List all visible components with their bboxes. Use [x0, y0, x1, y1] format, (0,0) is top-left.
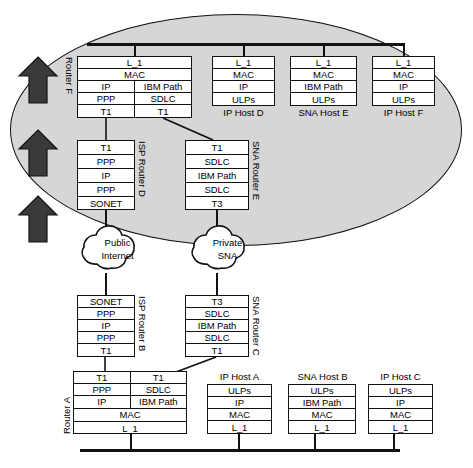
- cloud-label-public-internet-line1: Public: [80, 238, 155, 248]
- stack-sna-host-b[interactable]: ULPs IBM Path MAC L_1: [288, 384, 356, 434]
- stack-row: PPP: [78, 155, 134, 169]
- stack-row: MAC: [213, 69, 274, 81]
- stack-cell: PPP: [78, 183, 134, 196]
- stack-cell: IBM Path: [135, 81, 191, 92]
- stack-row: L_1: [369, 421, 432, 434]
- stack-cell: PPP: [78, 155, 134, 168]
- label-sna-router-c: SNA Router C: [251, 296, 261, 356]
- stack-cell: ULPs: [213, 93, 274, 106]
- stack-cell: SDLC: [186, 332, 248, 343]
- stack-row: SDLC: [186, 308, 248, 320]
- stack-row: SDLC: [186, 183, 248, 197]
- drop-line-sna-host-b: [314, 434, 316, 450]
- stack-cell: ULPs: [289, 385, 355, 396]
- stack-row: MAC: [289, 409, 355, 421]
- stack-row: L_1: [208, 421, 271, 434]
- stack-row: IP: [78, 320, 134, 332]
- cloud-label-public-internet-line2: Internet: [80, 251, 155, 261]
- stack-cell: IP: [74, 396, 131, 408]
- stack-row: MAC: [369, 409, 432, 421]
- stack-cell: SDLC: [131, 384, 187, 395]
- stack-row: IP: [213, 81, 274, 93]
- stack-ip-host-c[interactable]: ULPs IP MAC L_1: [368, 384, 433, 434]
- stack-row: ULPs: [373, 93, 434, 106]
- stack-cell: IBM Path: [186, 320, 248, 331]
- stack-cell: L_1: [373, 57, 434, 68]
- stack-ip-host-a[interactable]: ULPs IP MAC L_1: [207, 384, 272, 434]
- stack-row: IBM Path: [289, 397, 355, 409]
- stack-row: L_1: [291, 57, 356, 69]
- stack-cell: ULPs: [369, 385, 432, 396]
- stack-router-a[interactable]: T1 T1 PPP SDLC IP IBM Path MAC L_1: [73, 371, 187, 434]
- stack-cell: T3: [186, 197, 248, 211]
- stack-cell: T1: [186, 141, 248, 154]
- stack-cell: IP: [213, 81, 274, 92]
- stack-cell: PPP: [78, 308, 134, 319]
- stack-cell: MAC: [74, 409, 186, 421]
- stack-row: PPP SDLC: [74, 384, 186, 396]
- label-router-f: Router F: [64, 57, 74, 94]
- stack-cell: PPP: [78, 332, 134, 343]
- stack-row: T3: [186, 296, 248, 308]
- diagram-canvas: L_1 MAC IP IBM Path PPP SDLC T1 T1 Route…: [0, 0, 473, 468]
- stack-row: T3: [186, 197, 248, 211]
- stack-cell: SDLC: [186, 155, 248, 168]
- stack-sna-host-e[interactable]: L_1 MAC IBM Path ULPs: [290, 56, 357, 106]
- stack-cell: T1: [131, 372, 187, 383]
- stack-row: ULPs: [213, 93, 274, 106]
- stack-row: IP IBM Path: [74, 396, 186, 409]
- stack-isp-router-b[interactable]: SONET PPP IP PPP T1: [77, 295, 135, 357]
- network-cloud-ellipse: [10, 14, 462, 246]
- stack-row: L_1: [373, 57, 434, 69]
- stack-cell: IP: [369, 397, 432, 408]
- drop-line-ip-host-c: [393, 434, 395, 450]
- stack-cell: T3: [186, 296, 248, 307]
- stack-cell: IBM Path: [289, 397, 355, 408]
- label-sna-router-e: SNA Router E: [251, 141, 261, 200]
- caption-ip-host-f: IP Host F: [372, 108, 435, 118]
- stack-row: ULPs: [291, 93, 356, 106]
- cloud-label-private-sna-line1: Private: [190, 238, 265, 248]
- stack-row: T1: [78, 141, 134, 155]
- stack-cell: IP: [373, 81, 434, 92]
- drop-line-ip-host-a: [238, 434, 240, 450]
- stack-cell: PPP: [78, 93, 135, 104]
- stack-ip-host-d[interactable]: L_1 MAC IP ULPs: [212, 56, 275, 106]
- stack-row: MAC: [373, 69, 434, 81]
- stack-cell: PPP: [74, 384, 131, 395]
- stack-row: IBM Path: [291, 81, 356, 93]
- stack-row: IBM Path: [186, 169, 248, 183]
- label-isp-router-d: ISP Router D: [137, 141, 147, 197]
- stack-row: ULPs: [369, 385, 432, 397]
- link-isp-router-d-to-public-internet: [105, 210, 107, 232]
- stack-row: T1: [78, 344, 134, 357]
- stack-cell: ULPs: [373, 93, 434, 106]
- stack-cell: ULPs: [291, 93, 356, 106]
- link-public-internet-to-isp-router-b: [105, 273, 107, 295]
- stack-ip-host-f[interactable]: L_1 MAC IP ULPs: [372, 56, 435, 106]
- stack-row: MAC: [74, 409, 186, 422]
- stack-row: T1 T1: [74, 372, 186, 384]
- stack-cell: MAC: [369, 409, 432, 420]
- stack-cell: T1: [78, 105, 135, 118]
- drop-line-ip-host-f: [403, 43, 405, 56]
- label-isp-router-b: ISP Router B: [137, 296, 147, 351]
- stack-cell: T1: [135, 105, 191, 118]
- stack-sna-router-e[interactable]: T1 SDLC IBM Path SDLC T3: [185, 140, 249, 210]
- stack-cell: L_1: [289, 421, 355, 434]
- stack-row: IBM Path: [186, 320, 248, 332]
- lower-lan-segment: [80, 449, 400, 452]
- label-router-a: Router A: [62, 397, 72, 434]
- link-sna-router-e-to-private-sna: [216, 210, 218, 232]
- stack-cell: T1: [186, 344, 248, 357]
- stack-row: T1: [186, 344, 248, 357]
- drop-line-sna-host-e: [323, 43, 325, 56]
- stack-sna-router-c[interactable]: T3 SDLC IBM Path SDLC T1: [185, 295, 249, 357]
- stack-cell: SONET: [78, 296, 134, 307]
- stack-isp-router-d[interactable]: T1 PPP IP PPP SONET: [77, 140, 135, 210]
- stack-router-f[interactable]: L_1 MAC IP IBM Path PPP SDLC T1 T1: [77, 56, 192, 118]
- stack-cell: MAC: [208, 409, 271, 420]
- stack-row: L_1: [78, 57, 191, 69]
- stack-row: PPP: [78, 308, 134, 320]
- stack-cell: T1: [78, 344, 134, 357]
